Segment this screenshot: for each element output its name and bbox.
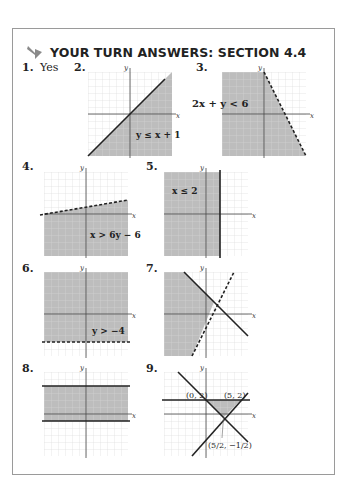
point-label: (5/2, −1/2) (208, 441, 252, 450)
svg-text:x: x (132, 312, 136, 320)
graph-4: xy x > 6y − 6 (44, 172, 128, 256)
graph-6: xy y > −4 (44, 272, 128, 356)
inequality-label: x > 6y − 6 (90, 230, 141, 240)
answer-number: 7. (146, 262, 157, 275)
inequality-label: x ≤ 2 (172, 186, 197, 196)
answer-number: 2. (74, 61, 85, 74)
graph-2: xy y ≤ x + 1 (88, 72, 172, 156)
answer-number: 5. (146, 160, 157, 173)
svg-text:x: x (252, 412, 256, 420)
answer-number: 1. (22, 61, 33, 74)
point-label: (5, 2) (224, 391, 246, 400)
graph-8: xy (44, 372, 128, 456)
inequality-label: y ≤ x + 1 (135, 130, 180, 140)
graph-9: xy (0, 2) (5, 2) (5/2, −1/2) (164, 372, 248, 456)
graph-5: xy x ≤ 2 (164, 172, 248, 256)
section-title: YOUR TURN ANSWERS: SECTION 4.4 (50, 45, 306, 60)
graph-7: xy (164, 272, 248, 356)
section-header: YOUR TURN ANSWERS: SECTION 4.4 (26, 44, 306, 60)
answer-number: 8. (22, 362, 33, 375)
answer-number: 4. (22, 160, 33, 173)
inequality-label: 2x + y < 6 (192, 98, 248, 109)
svg-text:x: x (176, 112, 180, 120)
svg-text:x: x (132, 212, 136, 220)
graph-3: xy 2x + y < 6 (222, 72, 306, 156)
answer-number: 9. (146, 362, 157, 375)
answer-text: Yes (40, 61, 58, 74)
point-label: (0, 2) (186, 391, 208, 400)
arrow-turn-icon (26, 44, 44, 60)
svg-text:x: x (252, 312, 256, 320)
inequality-label: y > −4 (91, 326, 125, 336)
svg-text:x: x (132, 412, 136, 420)
svg-text:x: x (252, 212, 256, 220)
svg-text:x: x (310, 112, 314, 120)
answer-number: 6. (22, 262, 33, 275)
answer-number: 3. (196, 61, 207, 74)
